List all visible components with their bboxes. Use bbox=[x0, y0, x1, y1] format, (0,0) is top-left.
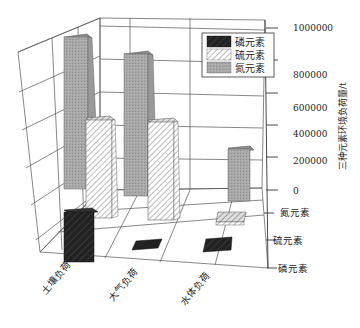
bar-air-nitrogen bbox=[124, 54, 148, 196]
legend: 磷元素 硫元素 氮元素 bbox=[202, 33, 274, 77]
bar-water-nitrogen bbox=[228, 149, 250, 201]
legend-label-sulfur: 硫元素 bbox=[235, 49, 265, 61]
depth-label-sulfur: 硫元素 bbox=[273, 235, 303, 246]
3d-bar-chart: 1000000 800000 600000 400000 200000 0 三种… bbox=[0, 0, 360, 328]
y-tick-400000: 400000 bbox=[293, 129, 328, 139]
y-tick-200000: 200000 bbox=[293, 156, 328, 166]
bar-water-phosphorus bbox=[203, 237, 232, 252]
x-axis: 土壤负荷 大气负荷 水体负荷 bbox=[39, 259, 212, 308]
bar-water-sulfur bbox=[216, 212, 246, 222]
legend-label-phosphorus: 磷元素 bbox=[235, 36, 265, 48]
y-axis: 1000000 800000 600000 400000 200000 0 三种… bbox=[265, 20, 348, 268]
legend-label-nitrogen: 氮元素 bbox=[235, 62, 265, 74]
y-tick-0: 0 bbox=[293, 186, 299, 196]
y-tick-1000000: 1000000 bbox=[293, 23, 333, 33]
y-axis-label: 三种元素环境负荷量/t bbox=[337, 82, 348, 170]
legend-swatch-phosphorus bbox=[207, 36, 231, 47]
x-label-water: 水体负荷 bbox=[178, 270, 212, 308]
y-tick-600000: 600000 bbox=[293, 103, 328, 113]
x-label-soil: 土壤负荷 bbox=[39, 259, 73, 297]
depth-axis: 氮元素 硫元素 磷元素 bbox=[264, 207, 310, 274]
series-sulfur bbox=[86, 116, 246, 225]
bar-soil-sulfur bbox=[86, 120, 112, 218]
depth-label-nitrogen: 氮元素 bbox=[280, 207, 310, 218]
depth-label-phosphorus: 磷元素 bbox=[278, 263, 308, 274]
bar-soil-nitrogen bbox=[64, 37, 88, 189]
legend-swatch-nitrogen bbox=[207, 62, 231, 73]
y-tick-800000: 800000 bbox=[293, 70, 328, 80]
bar-soil-phosphorus bbox=[64, 212, 94, 262]
bar-air-phosphorus bbox=[132, 239, 162, 250]
bar-air-sulfur bbox=[148, 122, 174, 220]
legend-swatch-sulfur bbox=[207, 49, 231, 60]
x-label-air: 大气负荷 bbox=[106, 266, 140, 304]
